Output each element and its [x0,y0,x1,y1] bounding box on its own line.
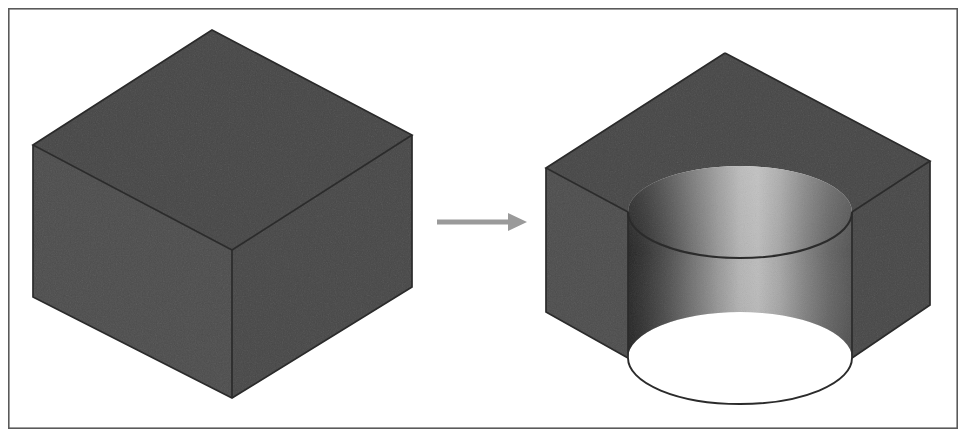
isometric-block-diagram [0,0,968,438]
figure-container [0,0,968,438]
